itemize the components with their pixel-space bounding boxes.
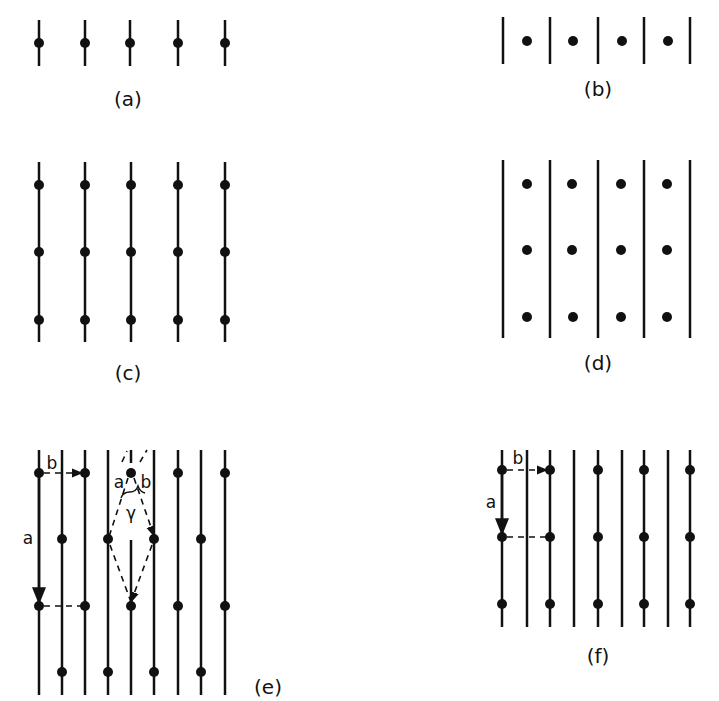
panel-e-inner-a: a xyxy=(114,472,124,492)
panel-e-vectors xyxy=(44,450,154,606)
lattice-figure: (a) (b) (c) (d) xyxy=(0,0,719,701)
panel-e-gamma: γ xyxy=(126,503,136,523)
panel-e-inner-b: b xyxy=(141,472,152,492)
panel-e-label-a: a xyxy=(23,528,33,548)
panel-e-label: (e) xyxy=(254,675,282,699)
panel-f-label-a: a xyxy=(486,492,496,512)
panel-f-label-b: b xyxy=(513,448,524,468)
panel-c-label: (c) xyxy=(115,361,142,385)
panel-b-label: (b) xyxy=(584,77,612,101)
panel-e xyxy=(39,450,225,695)
panel-a-dots xyxy=(34,38,230,48)
panel-f-label: (f) xyxy=(587,644,610,668)
panel-a-label: (a) xyxy=(114,87,142,111)
panel-e-label-b: b xyxy=(47,453,58,473)
panel-d-label: (d) xyxy=(584,351,612,375)
